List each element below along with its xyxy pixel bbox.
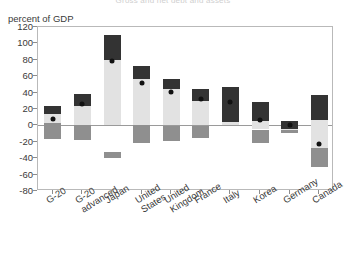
net-debt-marker bbox=[80, 102, 85, 107]
net-debt-marker bbox=[110, 59, 115, 64]
y-tick-label: 40 bbox=[22, 86, 33, 97]
net-debt-marker bbox=[50, 116, 55, 121]
bar-segment-dark bbox=[44, 106, 61, 114]
bar-segment-dark bbox=[133, 66, 150, 78]
bar-united-states[interactable] bbox=[133, 27, 150, 191]
bar-segment-light bbox=[74, 106, 91, 126]
bar-segment-light bbox=[222, 122, 239, 125]
bar-korea[interactable] bbox=[252, 27, 269, 191]
bar-segment-mid bbox=[104, 152, 121, 158]
bar-segment-dark bbox=[311, 95, 328, 120]
bar-italy[interactable] bbox=[222, 27, 239, 191]
chart-figure: Gross and net debt and assets percent of… bbox=[0, 0, 346, 257]
bar-segment-light bbox=[104, 60, 121, 126]
chart-title-cutoff: Gross and net debt and assets bbox=[0, 0, 346, 6]
bar-segment-light bbox=[163, 89, 180, 125]
y-tick-mark bbox=[33, 141, 37, 142]
bar-canada[interactable] bbox=[311, 27, 328, 191]
bar-segment-mid bbox=[44, 123, 61, 139]
bar-japan[interactable] bbox=[104, 27, 121, 191]
y-tick-mark bbox=[33, 174, 37, 175]
y-tick-mark bbox=[33, 92, 37, 93]
y-tick-label: 60 bbox=[22, 70, 33, 81]
y-tick-mark bbox=[33, 157, 37, 158]
net-debt-marker bbox=[139, 80, 144, 85]
y-tick-label: 80 bbox=[22, 53, 33, 64]
bar-segment-mid bbox=[192, 126, 209, 137]
bar-g-20[interactable] bbox=[44, 27, 61, 191]
y-tick-mark bbox=[33, 75, 37, 76]
bar-segment-dark bbox=[163, 79, 180, 90]
bar-segment-light bbox=[133, 79, 150, 126]
net-debt-marker bbox=[198, 97, 203, 102]
bar-segment-mid bbox=[163, 126, 180, 141]
y-tick-label: 100 bbox=[17, 37, 33, 48]
bar-segment-mid bbox=[74, 125, 91, 140]
y-tick-mark bbox=[33, 108, 37, 109]
net-debt-marker bbox=[169, 89, 174, 94]
bar-g-20-advanced[interactable] bbox=[74, 27, 91, 191]
bar-united-kingdom[interactable] bbox=[163, 27, 180, 191]
y-tick-label: -40 bbox=[19, 152, 33, 163]
bar-segment-mid bbox=[133, 125, 150, 142]
plot-area bbox=[37, 26, 333, 190]
bar-france[interactable] bbox=[192, 27, 209, 191]
bar-germany[interactable] bbox=[281, 27, 298, 191]
y-tick-mark bbox=[33, 42, 37, 43]
y-tick-mark bbox=[33, 26, 37, 27]
bar-segment-mid bbox=[311, 148, 328, 167]
net-debt-marker bbox=[317, 142, 322, 147]
bar-segment-dark bbox=[104, 35, 121, 60]
y-tick-mark bbox=[33, 124, 37, 125]
net-debt-marker bbox=[258, 117, 263, 122]
y-tick-label: 20 bbox=[22, 103, 33, 114]
y-tick-label: -80 bbox=[19, 185, 33, 196]
y-tick-mark bbox=[33, 59, 37, 60]
y-axis-tick-labels: 120100806040200-20-40-60-80 bbox=[0, 0, 33, 257]
y-tick-label: -20 bbox=[19, 135, 33, 146]
y-tick-label: -60 bbox=[19, 168, 33, 179]
net-debt-marker bbox=[287, 123, 292, 128]
net-debt-marker bbox=[228, 100, 233, 105]
bar-segment-light bbox=[192, 101, 209, 126]
bar-segment-light bbox=[252, 121, 269, 129]
y-tick-label: 120 bbox=[17, 21, 33, 32]
y-tick-mark bbox=[33, 190, 37, 191]
bar-segment-mid bbox=[252, 130, 269, 144]
bar-segment-mid bbox=[281, 130, 298, 132]
